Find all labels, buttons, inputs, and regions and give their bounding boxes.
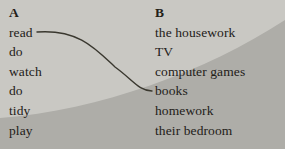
column-a: A read do watch do tidy play (9, 3, 129, 140)
column-b: B the housework TV computer games books … (155, 3, 283, 140)
column-a-item: play (9, 121, 129, 141)
column-b-item: TV (155, 42, 283, 62)
column-b-item: books (155, 81, 283, 101)
column-b-item: computer games (155, 62, 283, 82)
column-a-item: do (9, 42, 129, 62)
column-a-item: read (9, 23, 129, 43)
matching-exercise: A read do watch do tidy play B the house… (0, 0, 285, 149)
column-a-item: tidy (9, 101, 129, 121)
column-b-item: their bedroom (155, 121, 283, 141)
column-b-header: B (155, 3, 283, 23)
column-b-item: the housework (155, 23, 283, 43)
column-a-header: A (9, 3, 129, 23)
column-a-item: do (9, 81, 129, 101)
column-a-item: watch (9, 62, 129, 82)
column-b-item: homework (155, 101, 283, 121)
